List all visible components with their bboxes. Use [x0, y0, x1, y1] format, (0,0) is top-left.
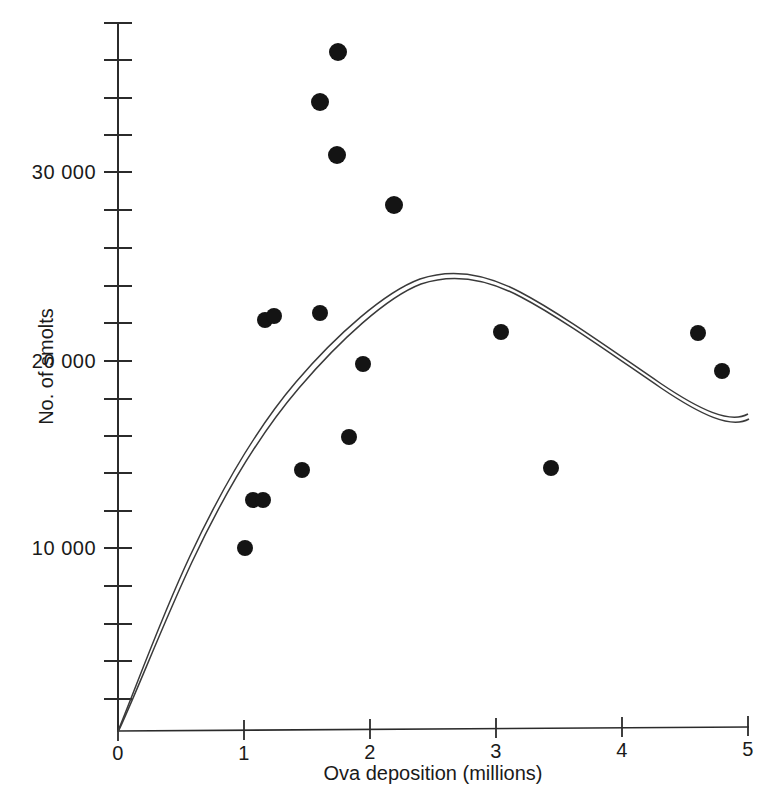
data-point: [237, 540, 253, 556]
x-tick-label-4: 4: [602, 739, 642, 762]
data-point: [311, 93, 329, 111]
data-point: [493, 324, 509, 340]
x-tick-label-2: 2: [350, 741, 390, 764]
data-point: [328, 146, 346, 164]
data-point: [690, 325, 706, 341]
y-tick-label-30000: 30 000: [0, 161, 96, 184]
data-point: [266, 308, 282, 324]
data-point: [312, 305, 328, 321]
fitted-curve-upper-edge: [118, 273, 748, 731]
data-point: [341, 429, 357, 445]
scatter-chart-figure: 30 000 20 000 10 000 0 1 2 3 4 5 No. of …: [0, 0, 775, 797]
y-axis-title: No. of smolts: [35, 277, 58, 457]
x-tick-label-5: 5: [728, 738, 768, 761]
x-axis-spine: [117, 727, 749, 731]
data-point: [714, 363, 730, 379]
fitted-curve: [118, 273, 749, 732]
y-tick-label-10000: 10 000: [0, 537, 96, 560]
data-points: [237, 43, 730, 556]
fitted-curve-lower-edge: [118, 278, 749, 732]
data-point: [329, 43, 347, 61]
data-point: [543, 460, 559, 476]
data-point: [355, 356, 371, 372]
x-axis-title: Ova deposition (millions): [118, 762, 748, 785]
plot-canvas: [0, 0, 775, 797]
x-tick-label-3: 3: [476, 740, 516, 763]
data-point: [294, 462, 310, 478]
data-point: [255, 492, 271, 508]
data-point: [385, 196, 403, 214]
